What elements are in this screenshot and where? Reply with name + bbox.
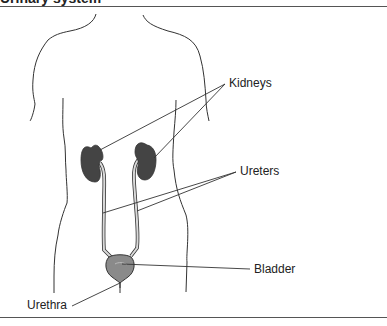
label-bladder: Bladder [254, 262, 295, 276]
right-kidney [135, 143, 156, 180]
leader-lines [72, 84, 250, 306]
bottom-divider [0, 317, 387, 318]
body-outline [30, 14, 209, 293]
urinary-system-diagram [0, 0, 387, 326]
kidneys [81, 143, 156, 182]
bladder [106, 255, 134, 283]
label-ureters: Ureters [240, 164, 279, 178]
label-kidneys: Kidneys [229, 76, 272, 90]
label-urethra: Urethra [27, 298, 67, 312]
